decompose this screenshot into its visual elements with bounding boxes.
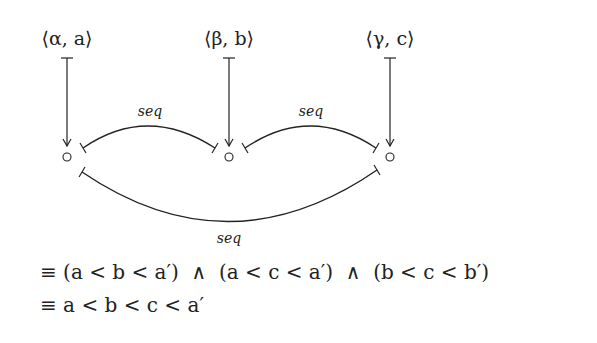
edge-label-beta-gamma: seq bbox=[299, 103, 323, 119]
node-beta bbox=[225, 153, 233, 161]
seq-edge-alpha-beta bbox=[80, 126, 218, 153]
node-label-alpha: ⟨α, a⟩ bbox=[41, 27, 92, 49]
node-label-beta: ⟨β, b⟩ bbox=[204, 27, 254, 49]
edge-label-alpha-gamma: seq bbox=[217, 230, 241, 246]
seq-edge-beta-gamma bbox=[242, 126, 379, 153]
formula-line-2: ≡ a < b < c < a′ bbox=[40, 293, 204, 317]
mapping-arrow-gamma bbox=[384, 58, 396, 146]
mapping-arrow-beta bbox=[223, 58, 235, 146]
node-label-gamma: ⟨γ, c⟩ bbox=[366, 27, 415, 49]
node-alpha bbox=[63, 153, 71, 161]
seq-edge-alpha-gamma bbox=[79, 165, 380, 222]
formula-line-1: ≡ (a < b < a′) ∧ (a < c < a′) ∧ (b < c <… bbox=[40, 260, 489, 284]
mapping-arrow-alpha bbox=[61, 58, 73, 146]
node-gamma bbox=[386, 153, 394, 161]
diagram-canvas: ⟨α, a⟩ ⟨β, b⟩ ⟨γ, c⟩ seq seq seq bbox=[0, 0, 597, 343]
edge-label-alpha-beta: seq bbox=[138, 103, 162, 119]
